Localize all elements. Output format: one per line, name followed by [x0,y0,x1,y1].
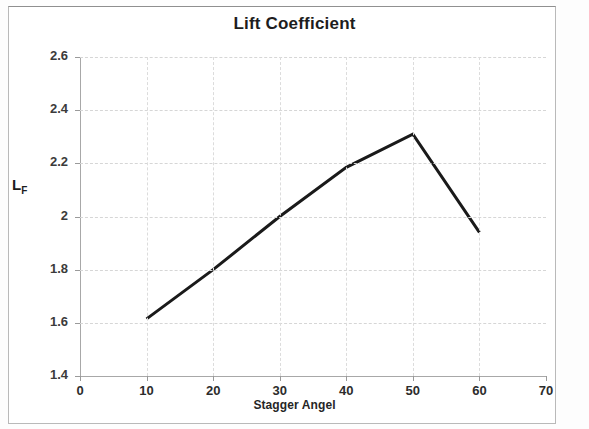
x-axis-tick-label: 50 [393,383,433,398]
y-axis-title-base: L [12,176,21,193]
y-axis-tick-label: 1.6 [28,314,68,329]
y-axis-tick-label: 1.4 [28,367,68,382]
plot-area [80,57,546,376]
y-axis-title-subscript: F [21,185,27,196]
gridline-horizontal [80,217,546,218]
y-axis-tick [75,110,80,111]
gridline-horizontal [80,270,546,271]
gridline-vertical [280,57,281,376]
y-axis-tick-label: 2.4 [28,101,68,116]
x-axis-tick-label: 0 [60,383,100,398]
x-axis-title: Stagger Angel [0,398,589,412]
gridline-vertical [413,57,414,376]
x-axis-tick [280,376,281,381]
x-axis-tick-label: 70 [526,383,566,398]
x-axis-tick [479,376,480,381]
x-axis-tick [413,376,414,381]
y-axis-tick [75,217,80,218]
gridline-vertical [147,57,148,376]
x-axis-tick-label: 20 [193,383,233,398]
gridline-horizontal [80,57,546,58]
y-axis-tick-label: 1.8 [28,261,68,276]
y-axis-tick-label: 2.6 [28,48,68,63]
gridline-vertical [346,57,347,376]
x-axis-line [80,376,547,377]
x-axis-tick [346,376,347,381]
chart-page: Lift Coefficient LF Stagger Angel 1.41.6… [0,0,589,429]
x-axis-tick-label: 40 [326,383,366,398]
y-axis-tick [75,163,80,164]
x-axis-tick [80,376,81,381]
y-axis-tick [75,57,80,58]
x-axis-tick-label: 30 [260,383,300,398]
y-axis-tick-label: 2 [28,208,68,223]
gridline-vertical [479,57,480,376]
x-axis-tick [213,376,214,381]
gridline-horizontal [80,163,546,164]
chart-title: Lift Coefficient [0,14,589,34]
x-axis-tick [546,376,547,381]
gridline-horizontal [80,323,546,324]
x-axis-tick-label: 60 [459,383,499,398]
gridline-horizontal [80,110,546,111]
gridline-vertical [213,57,214,376]
y-axis-title: LF [12,176,27,196]
y-axis-tick [75,270,80,271]
y-axis-tick-label: 2.2 [28,154,68,169]
y-axis-tick [75,323,80,324]
x-axis-tick [147,376,148,381]
x-axis-tick-label: 10 [127,383,167,398]
